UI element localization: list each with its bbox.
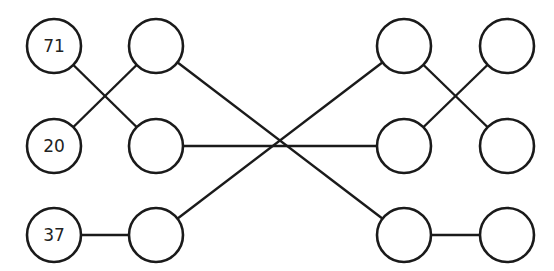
node-c1r1: 71 xyxy=(27,19,81,73)
network-diagram: 71 20 37 xyxy=(0,0,554,271)
node-label: 71 xyxy=(43,36,65,56)
node-c2r2 xyxy=(129,119,183,173)
node-c2r1 xyxy=(129,19,183,73)
node-label: 37 xyxy=(43,225,65,245)
node-c1r2: 20 xyxy=(27,119,81,173)
node-label: 20 xyxy=(43,136,65,156)
node-c4r1 xyxy=(480,19,534,73)
node-c3r1 xyxy=(377,19,431,73)
node-c4r3 xyxy=(480,208,534,262)
node-c4r2 xyxy=(480,119,534,173)
edges xyxy=(54,46,507,235)
node-c3r3 xyxy=(377,208,431,262)
node-c3r2 xyxy=(377,119,431,173)
node-c1r3: 37 xyxy=(27,208,81,262)
node-c2r3 xyxy=(129,208,183,262)
